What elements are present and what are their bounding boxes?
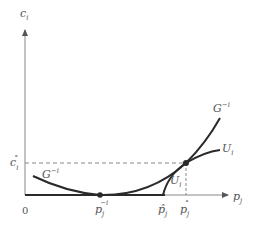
y-axis-label: ci — [20, 7, 28, 22]
u-right-label: Ui — [222, 142, 234, 157]
p-min-label: pj−i — [95, 199, 108, 218]
c-star-label: ci° — [10, 154, 18, 172]
minimum-point — [97, 192, 103, 198]
p-star-label: pj° — [180, 199, 190, 218]
g-right-label: G−i — [213, 101, 230, 115]
diagram-canvas: ci pj 0 ci° G−i G−i Ui Ui pj−i p̂j pj° — [0, 0, 255, 229]
x-axis-label: pj — [233, 190, 243, 205]
g-left-label: G−i — [42, 167, 59, 181]
intersection-point — [183, 160, 189, 166]
g-curve — [33, 118, 220, 195]
p-hat-label: p̂j — [158, 203, 168, 218]
u-lower-label: Ui — [170, 174, 182, 189]
origin-label: 0 — [22, 205, 28, 216]
